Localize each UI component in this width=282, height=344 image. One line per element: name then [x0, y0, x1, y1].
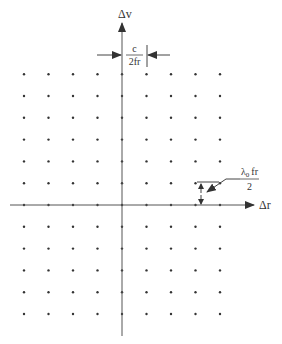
lattice-point	[219, 73, 221, 75]
lattice-point	[170, 269, 172, 271]
lattice-point	[219, 226, 221, 228]
lattice-point	[72, 117, 74, 119]
lattice-point	[145, 247, 147, 249]
lattice-point	[72, 313, 74, 315]
lattice-point	[47, 313, 49, 315]
lattice-point	[219, 269, 221, 271]
lattice-point	[194, 269, 196, 271]
vertical-spacing-dimension: λ0fr 2	[197, 166, 259, 204]
spacing-denominator: 2fr	[129, 56, 141, 67]
lattice-diagram: Δv Δr c 2fr λ0fr 2	[0, 0, 282, 344]
lattice-point	[47, 138, 49, 140]
lattice-point	[47, 269, 49, 271]
lattice-point	[23, 226, 25, 228]
lattice-point	[23, 269, 25, 271]
lattice-point	[47, 117, 49, 119]
spacing-denominator: 2	[247, 181, 252, 192]
lattice-point	[96, 269, 98, 271]
lattice-point	[47, 160, 49, 162]
lattice-point	[170, 313, 172, 315]
vertical-axis-label: Δv	[118, 7, 132, 21]
lattice-point	[96, 313, 98, 315]
lattice-point	[194, 73, 196, 75]
lattice-point	[72, 73, 74, 75]
lambda-subscript: 0	[246, 171, 250, 179]
lattice-point	[194, 247, 196, 249]
leader-line	[207, 179, 240, 192]
lattice-point	[145, 138, 147, 140]
lattice-point	[96, 226, 98, 228]
lattice-point	[72, 269, 74, 271]
lattice-point	[96, 291, 98, 293]
lattice-point	[72, 226, 74, 228]
lattice-point	[194, 160, 196, 162]
lattice-point	[194, 117, 196, 119]
lattice-point	[170, 160, 172, 162]
lattice-point	[219, 160, 221, 162]
lattice-point	[23, 313, 25, 315]
horizontal-spacing-dimension: c 2fr	[97, 43, 170, 67]
lattice-point	[194, 226, 196, 228]
lattice-point	[23, 247, 25, 249]
lattice-point	[72, 247, 74, 249]
lattice-point	[145, 313, 147, 315]
lattice-point	[47, 291, 49, 293]
lattice-point	[96, 95, 98, 97]
lattice-point	[23, 182, 25, 184]
lattice-point	[170, 226, 172, 228]
lattice-point	[47, 247, 49, 249]
lattice-point	[145, 95, 147, 97]
lattice-point	[96, 138, 98, 140]
lattice-point	[170, 291, 172, 293]
spacing-numerator: c	[132, 43, 137, 54]
spacing-numerator-lambda: λ0fr	[241, 166, 259, 179]
lattice-point	[23, 160, 25, 162]
horizontal-axis-label: Δr	[259, 198, 271, 212]
lattice-point	[47, 226, 49, 228]
lattice-point	[23, 95, 25, 97]
lattice-point	[96, 73, 98, 75]
lattice-point	[194, 95, 196, 97]
lattice-point	[96, 160, 98, 162]
lattice-point	[219, 247, 221, 249]
lattice-point	[194, 182, 196, 184]
lattice-point	[170, 138, 172, 140]
lattice-point	[194, 138, 196, 140]
lattice-point	[23, 291, 25, 293]
lattice-point	[47, 182, 49, 184]
lattice-point	[23, 73, 25, 75]
lattice-point	[145, 269, 147, 271]
lattice-point	[145, 182, 147, 184]
lattice-point	[72, 291, 74, 293]
lattice-point	[23, 138, 25, 140]
lattice-point	[194, 313, 196, 315]
diagram-canvas: Δv Δr c 2fr λ0fr 2	[0, 0, 282, 344]
lattice-point	[170, 182, 172, 184]
lattice-point	[47, 73, 49, 75]
lattice-point	[170, 95, 172, 97]
lattice-point	[145, 291, 147, 293]
lattice-point	[170, 73, 172, 75]
lattice-point	[96, 182, 98, 184]
lattice-point	[170, 247, 172, 249]
lattice-point	[72, 138, 74, 140]
lattice-point	[72, 95, 74, 97]
lattice-point	[170, 117, 172, 119]
lattice-point	[96, 247, 98, 249]
lattice-point	[47, 95, 49, 97]
lattice-point	[72, 160, 74, 162]
lattice-point	[145, 73, 147, 75]
lattice-point	[145, 226, 147, 228]
lattice-point	[219, 117, 221, 119]
lattice-point	[219, 138, 221, 140]
lattice-point	[145, 160, 147, 162]
lattice-point	[219, 313, 221, 315]
lambda-rest: fr	[251, 166, 258, 177]
lattice-point	[96, 117, 98, 119]
lattice-point	[219, 95, 221, 97]
lattice-point	[72, 182, 74, 184]
lattice-point	[194, 291, 196, 293]
lattice-point	[23, 117, 25, 119]
lattice-point	[219, 291, 221, 293]
lattice-point	[145, 117, 147, 119]
